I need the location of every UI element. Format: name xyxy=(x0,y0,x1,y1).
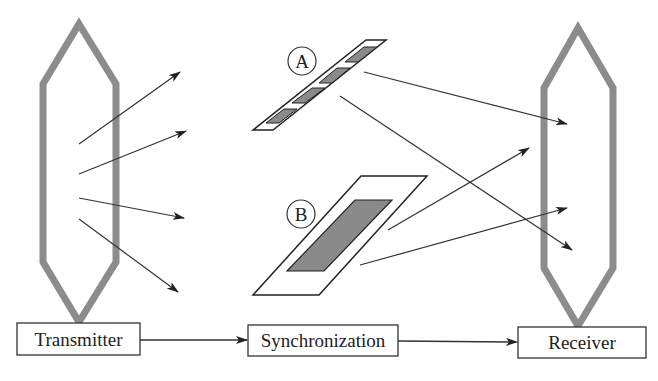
svg-text:B: B xyxy=(295,204,308,225)
transmitted-rays xyxy=(79,72,186,292)
transmitter-box: Transmitter xyxy=(17,323,140,355)
surface-a xyxy=(253,40,386,130)
diagram-canvas: A B Transmitter Synchronization Receiver xyxy=(0,0,658,381)
svg-text:A: A xyxy=(295,51,309,72)
receiver-box: Receiver xyxy=(518,327,646,358)
reflected-rays xyxy=(340,72,572,265)
surface-b xyxy=(253,176,427,295)
transmitter-antenna xyxy=(43,24,116,322)
synchronization-box: Synchronization xyxy=(248,325,398,356)
receiver-antenna xyxy=(544,28,613,326)
svg-text:Transmitter: Transmitter xyxy=(35,329,124,350)
label-b-badge: B xyxy=(287,200,315,228)
svg-text:Synchronization: Synchronization xyxy=(261,330,386,351)
svg-text:Receiver: Receiver xyxy=(548,332,616,353)
label-a-badge: A xyxy=(288,47,316,75)
